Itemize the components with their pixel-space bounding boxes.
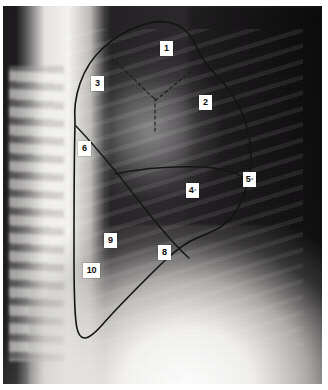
annotation-label-10: 10 — [83, 263, 100, 278]
label-9-text: 9 — [108, 236, 113, 245]
annotation-label-9: 9 — [104, 233, 117, 248]
annotation-label-8: 8 — [158, 245, 171, 260]
label-3-text: 3 — [95, 79, 100, 88]
radiograph-image: 1234°5°68910 — [3, 6, 322, 384]
annotation-label-6: 6 — [78, 141, 91, 156]
label-1-text: 1 — [164, 44, 169, 53]
page-margin-bottom — [0, 384, 328, 390]
annotation-label-3: 3 — [91, 76, 104, 91]
label-2-text: 2 — [203, 98, 208, 107]
annotation-label-4: 4° — [186, 183, 199, 198]
label-5-text: 5 — [246, 175, 251, 184]
figure-root: 1234°5°68910 — [0, 0, 328, 390]
annotation-label-2: 2 — [199, 95, 212, 110]
label-4-superscript: ° — [194, 188, 196, 194]
annotation-label-5: 5° — [243, 172, 256, 187]
page-margin-right — [322, 0, 328, 390]
label-10-text: 10 — [87, 266, 97, 275]
page-margin-top — [0, 0, 328, 6]
label-4-text: 4 — [189, 186, 194, 195]
page-margin-left — [0, 0, 3, 390]
label-6-text: 6 — [82, 144, 87, 153]
label-8-text: 8 — [162, 248, 167, 257]
label-5-superscript: ° — [251, 177, 253, 183]
film-grain-overlay — [3, 6, 322, 384]
annotation-label-1: 1 — [160, 41, 173, 56]
